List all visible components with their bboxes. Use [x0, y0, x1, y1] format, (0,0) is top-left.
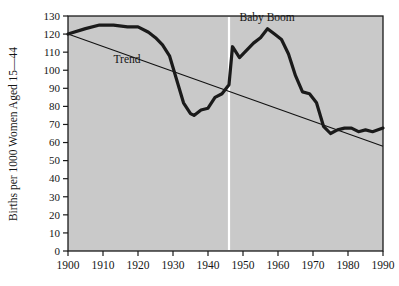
x-axis-tick-labels: 1900191019201930194019501960197019801990: [57, 259, 395, 271]
x-tick-label: 1900: [57, 259, 80, 271]
y-tick-label: 0: [55, 245, 61, 257]
y-tick-label: 80: [49, 100, 61, 112]
y-tick-label: 20: [49, 209, 61, 221]
birth-rate-figure: 0102030405060708090100110120130 19001910…: [0, 0, 399, 286]
y-axis-tick-marks: [63, 16, 68, 251]
x-tick-label: 1980: [337, 259, 360, 271]
x-tick-label: 1940: [197, 259, 220, 271]
y-tick-label: 40: [49, 172, 61, 184]
y-tick-label: 100: [44, 64, 61, 76]
x-tick-label: 1950: [232, 259, 255, 271]
x-axis-tick-marks: [68, 251, 383, 256]
y-tick-label: 60: [49, 136, 61, 148]
y-tick-label: 130: [44, 10, 61, 22]
y-tick-label: 110: [44, 46, 61, 58]
y-tick-label: 70: [49, 118, 61, 130]
x-tick-label: 1910: [92, 259, 115, 271]
baby-boom-annotation-label: Baby Boom: [240, 11, 295, 24]
chart-canvas: 0102030405060708090100110120130 19001910…: [0, 0, 399, 286]
x-tick-label: 1920: [127, 259, 150, 271]
trend-annotation-label: Trend: [114, 53, 141, 65]
x-tick-label: 1970: [302, 259, 325, 271]
y-tick-label: 50: [49, 154, 61, 166]
x-tick-label: 1990: [372, 259, 395, 271]
x-tick-label: 1960: [267, 259, 290, 271]
x-tick-label: 1930: [162, 259, 185, 271]
y-axis-tick-labels: 0102030405060708090100110120130: [44, 10, 61, 257]
y-tick-label: 90: [49, 82, 61, 94]
y-tick-label: 120: [44, 28, 61, 40]
y-axis-title: Births per 1000 Women Aged 15—44: [7, 47, 20, 221]
y-tick-label: 10: [49, 227, 61, 239]
y-tick-label: 30: [49, 191, 61, 203]
